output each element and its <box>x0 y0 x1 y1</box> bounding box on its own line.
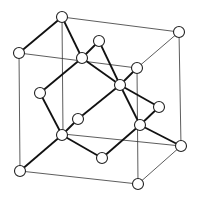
atom-face-front <box>73 114 84 125</box>
atom-face-top <box>94 36 105 47</box>
diamond-cubic-diagram <box>0 0 200 200</box>
atom-corner-bottom-front-left <box>15 166 26 177</box>
atom-corner-bottom-back-right <box>176 141 187 152</box>
bond-line <box>62 135 102 158</box>
cube-edge <box>62 17 179 32</box>
atom-face-right <box>154 102 165 113</box>
atom-face-left <box>35 88 46 99</box>
cube-edge <box>137 32 179 68</box>
atom-corner-top-front-left <box>14 48 25 59</box>
atom-face-bottom <box>97 153 108 164</box>
atom-interior-2 <box>115 80 126 91</box>
bond-line <box>78 85 120 119</box>
bond-line <box>40 58 82 93</box>
atom-interior-4 <box>135 120 146 131</box>
cube-edge <box>19 53 20 171</box>
cube-edge <box>20 171 138 184</box>
bond-line <box>40 93 62 135</box>
atom-corner-top-back-left <box>57 12 68 23</box>
cube-edge <box>179 32 181 146</box>
atom-corner-top-back-right <box>174 27 185 38</box>
bond-line <box>62 17 82 58</box>
atom-interior-1 <box>77 53 88 64</box>
atom-corner-top-front-right <box>132 63 143 74</box>
atom-corner-bottom-front-right <box>133 179 144 190</box>
atom-interior-3 <box>57 130 68 141</box>
bond-line <box>20 135 62 171</box>
cube-edge <box>138 146 181 184</box>
bond-line <box>19 17 62 53</box>
